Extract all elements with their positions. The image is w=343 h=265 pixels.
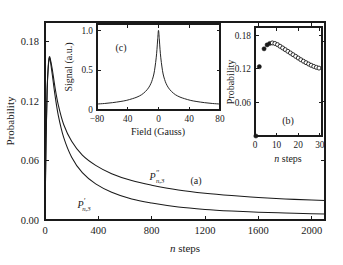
main-x-tick-label: 400	[90, 225, 106, 236]
figure-container: 04008001200160020000.000.060.120.18 Prob…	[0, 0, 343, 265]
inset-c-background	[97, 24, 220, 110]
inset-c-y-tick-label: 0.5	[81, 65, 93, 75]
main-y-tick-label: 0.06	[21, 155, 39, 166]
main-x-tick-label: 1200	[195, 225, 216, 236]
inset-c-x-tick-label: 0	[156, 114, 161, 124]
inset-c-y-tick-label: 1.0	[81, 26, 93, 36]
figure-svg: 04008001200160020000.000.060.120.18 Prob…	[0, 0, 343, 265]
inset-b-y-axis-title: Probability	[225, 60, 236, 104]
main-x-axis-title: n steps	[170, 242, 200, 254]
main-y-tick-label: 0.00	[21, 215, 39, 226]
main-x-tick-label: 0	[42, 225, 47, 236]
data-point-filled	[262, 47, 266, 51]
main-x-tick-label: 800	[144, 225, 160, 236]
inset-b-x-tick-label: 0	[253, 140, 258, 150]
inset-b-x-tick-label: 10	[272, 140, 282, 150]
main-y-axis-title: Probability	[4, 96, 16, 145]
panel-label-a: (a)	[190, 175, 201, 187]
main-y-tick-label: 0.18	[21, 36, 39, 47]
panel-label-c: (c)	[115, 42, 126, 54]
main-y-tick-label: 0.12	[21, 96, 39, 107]
inset-b-y-tick-label: 0.06	[235, 98, 252, 108]
inset-c-x-tick-label: 40	[123, 114, 133, 124]
inset-c-x-tick-label: 40	[185, 114, 195, 124]
inset-b-y-tick-label: 0.18	[235, 31, 252, 41]
data-point-open	[317, 66, 321, 70]
main-x-tick-label: 2000	[301, 225, 322, 236]
main-x-tick-label: 1600	[248, 225, 269, 236]
data-point-filled	[257, 65, 261, 69]
inset-c-x-tick-label: 80	[215, 114, 225, 124]
inset-c-x-tick-label: −80	[90, 114, 105, 124]
inset-c-y-axis-title: Signal (a.u.)	[63, 42, 75, 91]
inset-b-x-tick-label: 20	[294, 140, 304, 150]
data-point-filled	[254, 134, 258, 138]
inset-b-y-tick-label: 0.12	[235, 64, 252, 74]
panel-label-b: (b)	[282, 115, 294, 127]
inset-b-x-axis-title: n steps	[274, 153, 302, 164]
inset-c-x-axis-title: Field (Gauss)	[131, 126, 185, 138]
inset-c-y-tick-label: 0	[88, 105, 93, 115]
inset-b-x-tick-label: 30	[315, 140, 325, 150]
